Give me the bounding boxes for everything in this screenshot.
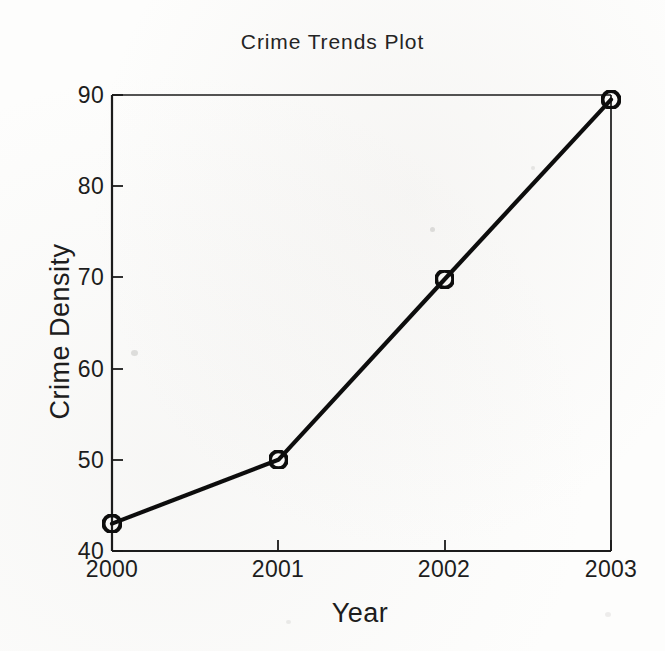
data-point-markers: [104, 91, 620, 532]
data-series-line: [112, 100, 611, 524]
x-tick-marks: [112, 540, 611, 551]
plot-area: [0, 0, 665, 651]
chart-figure: Crime Trends Plot Crime Density Year 90 …: [0, 0, 665, 651]
y-tick-marks: [112, 95, 123, 551]
axis-spines: [112, 95, 611, 551]
